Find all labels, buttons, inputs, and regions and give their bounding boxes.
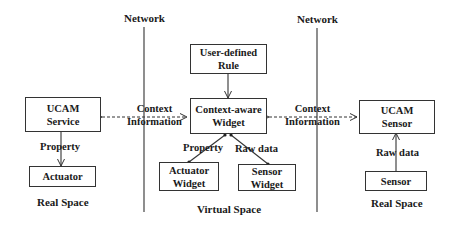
box-text: Service xyxy=(47,115,80,128)
ucam-service-box: UCAMService xyxy=(25,97,101,132)
box-text: Widget xyxy=(169,177,209,190)
virtual-space-label: Virtual Space xyxy=(197,203,261,215)
property-label-center: Property xyxy=(183,142,223,153)
box-text: User-defined xyxy=(200,46,257,59)
actuator-widget-box: ActuatorWidget xyxy=(159,162,219,191)
box-text: Sensor xyxy=(251,165,283,178)
network-label-right: Network xyxy=(297,13,338,25)
context-info-label-right: ContextInformation xyxy=(285,102,340,128)
network-label-left: Network xyxy=(124,12,165,24)
box-text: UCAM xyxy=(47,102,80,115)
user-defined-rule-box: User-definedRule xyxy=(190,44,267,74)
sensor-widget-box: SensorWidget xyxy=(238,164,296,191)
box-text: Widget xyxy=(251,178,283,191)
box-text: Context-aware xyxy=(195,103,261,116)
ucam-sensor-box: UCAMSensor xyxy=(359,100,435,134)
box-text: UCAM xyxy=(381,104,414,117)
actuator-box: Actuator xyxy=(29,166,96,187)
raw-data-label-right: Raw data xyxy=(376,147,419,158)
box-text: Widget xyxy=(195,116,261,129)
real-space-label-left: Real Space xyxy=(37,196,89,208)
box-text: Sensor xyxy=(381,117,414,130)
sensor-box: Sensor xyxy=(365,171,427,191)
box-text: Rule xyxy=(200,59,257,72)
box-text: Actuator xyxy=(169,164,209,177)
context-aware-widget-box: Context-awareWidget xyxy=(190,98,267,134)
context-info-label-left: ContextInformation xyxy=(127,102,182,128)
raw-data-label-center: Raw data xyxy=(235,143,278,154)
property-label-left: Property xyxy=(40,141,80,152)
real-space-label-right: Real Space xyxy=(371,197,423,209)
